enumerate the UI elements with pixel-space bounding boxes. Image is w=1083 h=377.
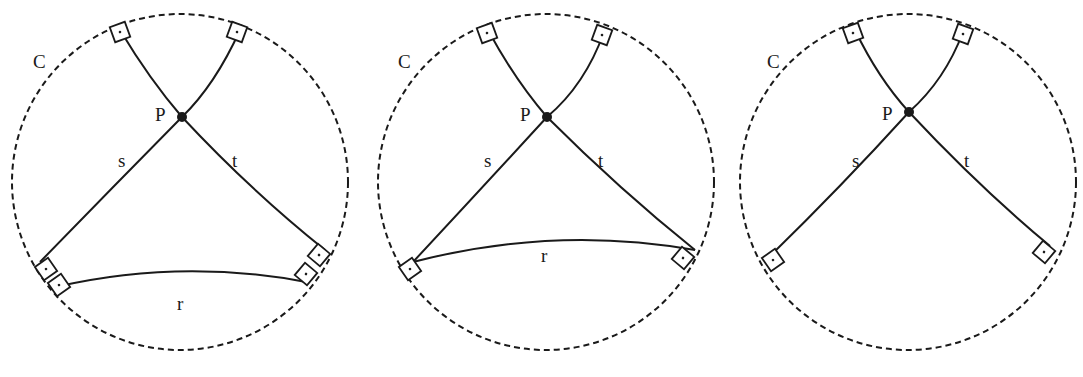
point-p: [904, 107, 914, 117]
line-s: [413, 30, 547, 262]
line-s: [40, 30, 182, 262]
right-angle-icon: [762, 249, 784, 271]
label-r: r: [541, 245, 548, 266]
right-angle-icon: [48, 274, 70, 296]
right-angle-icon: [227, 22, 248, 43]
line-t: [547, 32, 695, 250]
label-t: t: [964, 150, 970, 171]
hyperbolic-diagram: C P s t r C P s t r C P s t: [0, 0, 1083, 377]
label-c: C: [767, 51, 780, 72]
label-t: t: [598, 150, 604, 171]
point-p: [542, 112, 552, 122]
right-angle-icon: [110, 22, 131, 43]
panel-1: C P s t r: [12, 14, 348, 350]
label-p: P: [155, 104, 166, 125]
boundary-circle-c: [740, 14, 1076, 350]
panel-3: C P s t: [740, 14, 1076, 350]
label-s: s: [484, 150, 491, 171]
right-angle-icon: [1033, 241, 1056, 264]
label-c: C: [398, 51, 411, 72]
point-p: [177, 112, 187, 122]
label-r: r: [177, 293, 184, 314]
label-c: C: [33, 51, 46, 72]
line-t: [182, 30, 325, 250]
line-r: [55, 271, 306, 287]
label-t: t: [232, 150, 238, 171]
label-s: s: [852, 150, 859, 171]
panel-2: C P s t r: [378, 14, 714, 350]
label-s: s: [118, 150, 125, 171]
line-r: [413, 240, 695, 262]
right-angle-icon: [592, 25, 613, 46]
label-p: P: [882, 103, 893, 124]
right-angle-icon: [35, 258, 57, 280]
boundary-circle-c: [378, 14, 714, 350]
line-s: [768, 30, 909, 258]
label-p: P: [520, 104, 531, 125]
right-angle-icon: [295, 263, 318, 286]
